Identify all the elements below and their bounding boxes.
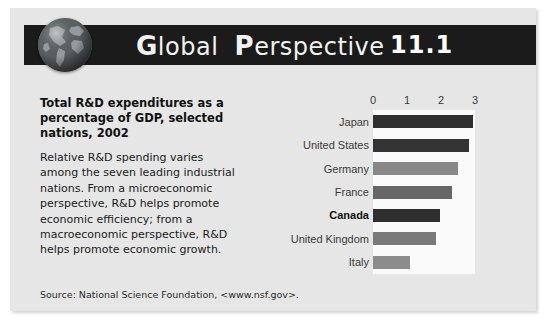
globe-icon	[38, 18, 92, 72]
bar-united-states	[373, 139, 469, 152]
x-tick-2: 2	[431, 94, 451, 106]
bar-germany	[373, 162, 458, 175]
bar-united-kingdom	[373, 232, 436, 245]
category-labels: JapanUnited StatesGermanyFranceCanadaUni…	[253, 110, 369, 274]
global-perspective-figure: Global Perspective 11.1 Total R&D expend…	[0, 0, 546, 332]
category-label-germany: Germany	[324, 162, 369, 176]
x-tick-0: 0	[363, 94, 383, 106]
category-label-italy: Italy	[349, 255, 369, 269]
bar-canada	[373, 209, 440, 222]
bar-italy	[373, 256, 410, 269]
figure-source: Source: National Science Foundation, <ww…	[40, 289, 440, 300]
category-label-united-kingdom: United Kingdom	[291, 232, 369, 246]
category-label-canada: Canada	[329, 208, 369, 222]
bar-france	[373, 186, 452, 199]
figure-body-text: Relative R&D spending varies among the s…	[40, 150, 240, 258]
banner-number: 11.1	[390, 29, 453, 61]
category-label-united-states: United States	[303, 138, 369, 152]
bar-chart: 0123 JapanUnited StatesGermanyFranceCana…	[253, 94, 503, 278]
figure-card: Global Perspective 11.1 Total R&D expend…	[10, 8, 536, 311]
plot-area	[373, 110, 475, 274]
banner-title: Global Perspective	[136, 30, 385, 62]
banner-title-erspective: erspective	[254, 33, 384, 61]
x-tick-1: 1	[397, 94, 417, 106]
x-tick-3: 3	[465, 94, 485, 106]
banner-title-cap-p: P	[235, 31, 255, 61]
banner-title-cap-g: G	[136, 31, 158, 61]
figure-headline: Total R&D expenditures as a percentage o…	[40, 96, 236, 141]
x-axis-tick-labels: 0123	[253, 94, 503, 110]
bar-japan	[373, 115, 473, 128]
category-label-japan: Japan	[339, 115, 369, 129]
category-label-france: France	[335, 185, 369, 199]
banner-title-lobal: lobal	[158, 33, 218, 61]
